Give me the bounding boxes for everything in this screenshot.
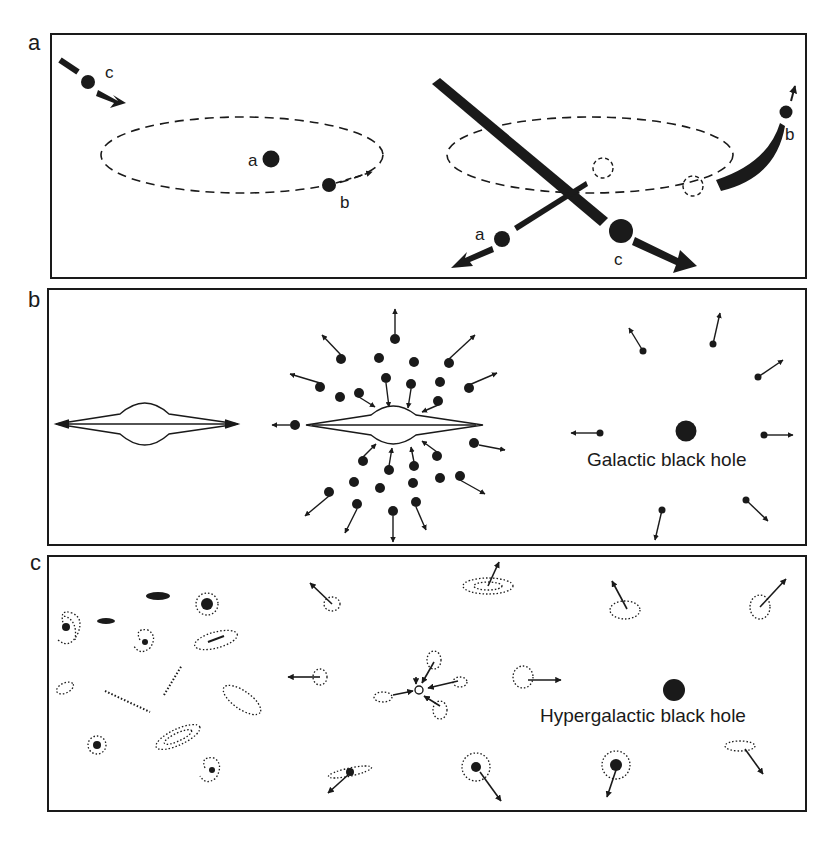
galactic-black-hole-label: Galactic black hole xyxy=(587,449,746,470)
panel-a-right-scene: a c b xyxy=(432,78,795,273)
galaxy-field xyxy=(55,578,770,782)
hypergalactic-black-hole xyxy=(663,679,685,701)
merging-galaxies xyxy=(374,651,467,719)
small-edge-galaxy xyxy=(97,618,115,624)
label-c-right: c xyxy=(614,250,623,269)
ring-galaxy xyxy=(153,720,203,755)
trajectory-b-curve xyxy=(716,123,785,191)
label-b-right: b xyxy=(785,125,794,144)
faint-galaxy xyxy=(55,680,76,697)
galaxy-motion-arrows xyxy=(288,562,786,801)
edge-on-galaxy-long xyxy=(105,691,150,712)
edge-on-galaxy-small xyxy=(164,665,182,695)
trajectory-b-arrow xyxy=(791,86,795,101)
panel-a: c a b a c b xyxy=(51,34,806,278)
galaxy-moving xyxy=(462,753,490,781)
label-a-right: a xyxy=(475,225,485,244)
label-c: c xyxy=(105,63,114,82)
panel-a-frame xyxy=(51,34,806,278)
trajectory-c-arrowhead xyxy=(632,237,697,273)
spiral-galaxy xyxy=(134,630,154,652)
body-a xyxy=(263,151,280,168)
former-position-a xyxy=(593,158,613,178)
galactic-black-hole xyxy=(676,421,697,442)
body-b-right xyxy=(780,106,793,119)
irregular-galaxy xyxy=(196,593,218,615)
oval-galaxy xyxy=(219,680,265,720)
galactic-black-hole-scene: Galactic black hole xyxy=(571,313,793,540)
panel-a-left-scene: c a b xyxy=(60,60,383,212)
panel-b: Galactic black hole xyxy=(48,289,806,545)
body-c xyxy=(81,75,95,89)
trajectory-c-tail xyxy=(60,60,78,72)
galaxy-moving xyxy=(513,666,533,688)
body-c-right xyxy=(609,219,633,243)
hypergalactic-black-hole-label: Hypergalactic black hole xyxy=(540,705,746,726)
trajectory-a-arrowhead xyxy=(451,246,494,268)
panel-c: Hypergalactic black hole xyxy=(48,556,806,811)
galaxy-moving xyxy=(328,764,373,781)
former-position-b xyxy=(683,176,703,196)
figure-canvas: c a b a c b xyxy=(0,0,832,843)
barred-galaxy xyxy=(193,627,240,654)
body-b xyxy=(322,178,336,192)
galaxy-ejecting-stars xyxy=(272,309,505,542)
label-b: b xyxy=(340,193,349,212)
galaxy-moving xyxy=(602,751,630,779)
trajectory-c-thick xyxy=(432,78,608,226)
galaxy-moving xyxy=(725,741,755,751)
trajectory-c-arrow xyxy=(96,90,126,108)
label-a: a xyxy=(248,151,258,170)
compact-galaxy xyxy=(88,736,106,754)
edge-on-galaxy xyxy=(56,403,238,445)
convergence-point xyxy=(415,686,423,694)
spiral-galaxy xyxy=(58,612,80,644)
body-a-right xyxy=(494,231,510,247)
spiral-galaxy xyxy=(200,758,220,782)
elliptical-galaxy xyxy=(146,592,170,600)
